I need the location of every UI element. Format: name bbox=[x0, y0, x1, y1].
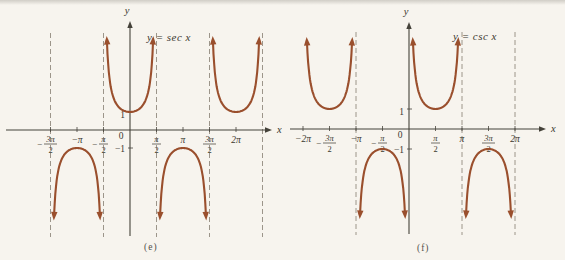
x-tick-label: 2π bbox=[510, 134, 520, 144]
fraction-denominator: 2 bbox=[101, 145, 105, 155]
curve-branch bbox=[360, 149, 405, 215]
y-axis-label: y bbox=[403, 6, 409, 17]
curve-arrowhead bbox=[410, 37, 416, 46]
y-tick-label: −1 bbox=[115, 144, 125, 154]
curve-arrowhead bbox=[51, 212, 57, 221]
x-tick-label: −2π bbox=[295, 134, 311, 144]
csc-graph-panel: xy−2π3π2−−ππ2−0π2π3π22π1−1 bbox=[282, 0, 565, 260]
curve-branch bbox=[413, 41, 458, 109]
curve-arrowhead bbox=[508, 210, 514, 219]
curve-arrowhead bbox=[203, 212, 209, 221]
fraction-sign: − bbox=[92, 139, 97, 149]
x-tick-label: 3π2 bbox=[203, 134, 216, 155]
fraction-sign: − bbox=[371, 138, 376, 148]
fraction-denominator: 2 bbox=[207, 145, 211, 155]
x-tick-label: −π bbox=[71, 135, 82, 145]
panel-caption-e: (e) bbox=[144, 242, 158, 252]
curve-arrowhead bbox=[357, 210, 363, 219]
fraction-denominator: 2 bbox=[48, 145, 52, 155]
curve-arrowhead bbox=[97, 212, 103, 221]
x-tick-label: −π bbox=[350, 134, 361, 144]
fraction-denominator: 2 bbox=[433, 144, 437, 154]
curve-branch bbox=[54, 148, 100, 216]
x-tick-label: 0 bbox=[119, 131, 124, 141]
curve-arrowhead bbox=[256, 36, 262, 45]
x-axis-arrowhead bbox=[539, 126, 546, 131]
x-tick-label: 3π2− bbox=[37, 134, 57, 155]
x-tick-label: 2π bbox=[231, 135, 241, 145]
fraction-sign: − bbox=[37, 139, 42, 149]
x-tick-label: π bbox=[460, 134, 465, 144]
fraction-denominator: 2 bbox=[154, 145, 158, 155]
curve-arrowhead bbox=[402, 210, 408, 219]
curve-branch bbox=[466, 149, 511, 215]
curve-arrowhead bbox=[210, 36, 216, 45]
fraction-numerator: 3π bbox=[324, 133, 334, 143]
x-axis-label: x bbox=[550, 123, 556, 134]
equation-label-sec: y = sec x bbox=[147, 31, 191, 43]
y-tick-label: 1 bbox=[399, 107, 404, 117]
fraction-numerator: π bbox=[154, 134, 159, 144]
fraction-numerator: 3π bbox=[204, 134, 214, 144]
fraction-denominator: 2 bbox=[327, 144, 331, 154]
panel-caption-f: (f) bbox=[417, 243, 430, 253]
x-tick-label: 0 bbox=[398, 130, 403, 140]
x-axis-arrowhead bbox=[265, 127, 272, 132]
fraction-numerator: 3π bbox=[45, 134, 55, 144]
curve-arrowhead bbox=[104, 36, 110, 45]
y-axis-label: y bbox=[124, 5, 130, 16]
sec-graph-panel: xy3π2−−ππ2−0π2π3π22π1−1 bbox=[0, 0, 282, 260]
x-tick-label: π bbox=[181, 135, 186, 145]
curve-arrowhead bbox=[349, 37, 355, 46]
curve-branch bbox=[160, 148, 206, 216]
curve-arrowhead bbox=[157, 212, 163, 221]
x-tick-label: π2 bbox=[152, 134, 161, 155]
fraction-sign: − bbox=[316, 138, 321, 148]
x-tick-label: π2− bbox=[92, 134, 108, 155]
x-tick-label: π2 bbox=[431, 133, 440, 154]
fraction-numerator: π bbox=[380, 133, 385, 143]
fraction-numerator: 3π bbox=[483, 133, 493, 143]
fraction-numerator: π bbox=[433, 133, 438, 143]
equation-label-csc: y = csc x bbox=[453, 30, 497, 42]
curve-branch bbox=[213, 40, 259, 112]
fraction-numerator: π bbox=[101, 134, 106, 144]
textbook-trig-figure: { "styles": { "background": "#f7f4ee", "… bbox=[0, 0, 565, 260]
curve-arrowhead bbox=[304, 37, 310, 46]
x-tick-label: 3π2− bbox=[316, 133, 336, 154]
curve-arrowhead bbox=[463, 210, 469, 219]
y-tick-label: −1 bbox=[394, 145, 404, 155]
curve-branch bbox=[307, 41, 352, 109]
